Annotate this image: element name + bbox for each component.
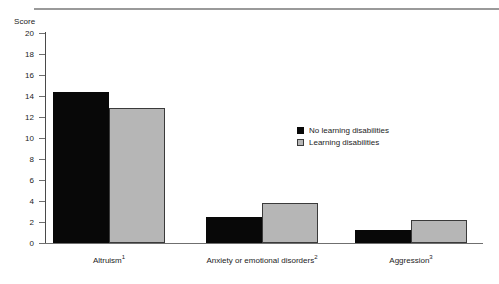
y-axis-tick-label: 12 (8, 113, 34, 122)
x-axis-line (45, 243, 483, 244)
plot-area (45, 33, 483, 243)
y-axis-tick-label: 8 (8, 155, 34, 164)
bar (355, 230, 411, 243)
legend-label: Learning disabilities (309, 138, 379, 147)
chart-page: Score 20181614121086420 Altruism1Anxiety… (0, 0, 499, 284)
y-axis-tick-label: 20 (8, 29, 34, 38)
category-footnote-marker: 2 (314, 254, 317, 260)
y-axis-title: Score (14, 17, 35, 26)
bar (262, 203, 318, 243)
bar (109, 108, 165, 243)
legend-item-no-learning-disabilities: No learning disabilities (297, 125, 389, 136)
y-axis-tick-label: 0 (8, 239, 34, 248)
bar (53, 92, 109, 243)
y-axis-tick-label: 4 (8, 197, 34, 206)
y-axis-tick-label: 6 (8, 176, 34, 185)
top-divider-rule (34, 8, 499, 10)
legend-swatch-black-icon (297, 127, 304, 134)
x-axis-category-label: Altruism1 (93, 256, 125, 265)
category-footnote-marker: 3 (429, 254, 432, 260)
legend-swatch-gray-icon (297, 139, 304, 146)
x-axis-category-label: Anxiety or emotional disorders2 (207, 256, 318, 265)
y-axis-tick-label: 10 (8, 134, 34, 143)
category-name: Aggression (389, 256, 429, 265)
y-axis-tick (39, 243, 45, 244)
chart-legend: No learning disabilities Learning disabi… (297, 125, 389, 149)
bar (206, 217, 262, 243)
y-axis-tick-label: 18 (8, 50, 34, 59)
y-axis-tick-label: 2 (8, 218, 34, 227)
y-axis-tick-label: 16 (8, 71, 34, 80)
bar (411, 220, 467, 243)
legend-label: No learning disabilities (309, 126, 389, 135)
x-axis-category-label: Aggression3 (389, 256, 432, 265)
legend-item-learning-disabilities: Learning disabilities (297, 137, 389, 148)
category-name: Anxiety or emotional disorders (207, 256, 315, 265)
category-name: Altruism (93, 256, 122, 265)
y-axis-tick-label: 14 (8, 92, 34, 101)
category-footnote-marker: 1 (122, 254, 125, 260)
